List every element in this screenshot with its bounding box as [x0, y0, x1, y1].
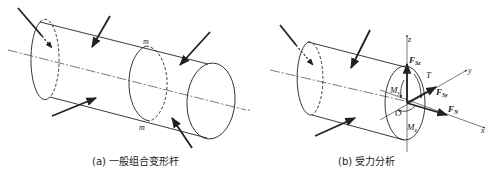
- panel-a-bar: [8, 19, 246, 140]
- panel-a-forces: [18, 8, 210, 148]
- label-Fsz: FSz: [408, 55, 421, 66]
- bar-axis-line: [8, 50, 246, 110]
- bottom-edge: [50, 97, 207, 138]
- label-Fsy: FSy: [435, 87, 448, 98]
- top-edge-b: [308, 42, 405, 67]
- label-T: T: [426, 70, 432, 80]
- label-My: My: [389, 85, 401, 96]
- force-arrow-1: [18, 8, 42, 36]
- force-arrow-2: [92, 16, 110, 47]
- force-FN: [407, 103, 447, 115]
- force-arrow-b1: [280, 25, 296, 45]
- section-label-top: m: [143, 37, 149, 46]
- left-end-hidden: [40, 19, 59, 97]
- panel-b-forces-outer: [280, 25, 370, 136]
- top-edge: [40, 22, 208, 64]
- y-axis-label: y: [467, 66, 472, 75]
- z-axis-label: z: [407, 35, 412, 44]
- caption-panel-a: (a) 一般组合变形杆: [92, 153, 179, 168]
- label-Mz: Mz: [406, 122, 418, 133]
- force-arrow-b2: [351, 30, 370, 68]
- diagram-canvas: m m z y x O FSz FSy FN T My Mz: [0, 0, 491, 174]
- section-m-visible: [129, 46, 150, 121]
- force-Fsy: [407, 87, 436, 103]
- cut-section-face: [385, 66, 425, 140]
- bar-axis-line-b: [270, 70, 405, 101]
- force-arrow-3: [180, 32, 210, 65]
- force-arrow-b3: [315, 118, 355, 136]
- moment-My-arc: [401, 80, 404, 98]
- left-end-visible-b: [297, 42, 312, 115]
- x-axis-label: x: [480, 126, 485, 135]
- caption-panel-b: (b) 受力分析: [338, 153, 395, 168]
- origin-label: O: [395, 108, 402, 118]
- section-m-hidden: [146, 46, 167, 121]
- left-end-hidden-b: [308, 42, 323, 115]
- label-FN: FN: [447, 104, 459, 115]
- section-label-bottom: m: [139, 123, 145, 132]
